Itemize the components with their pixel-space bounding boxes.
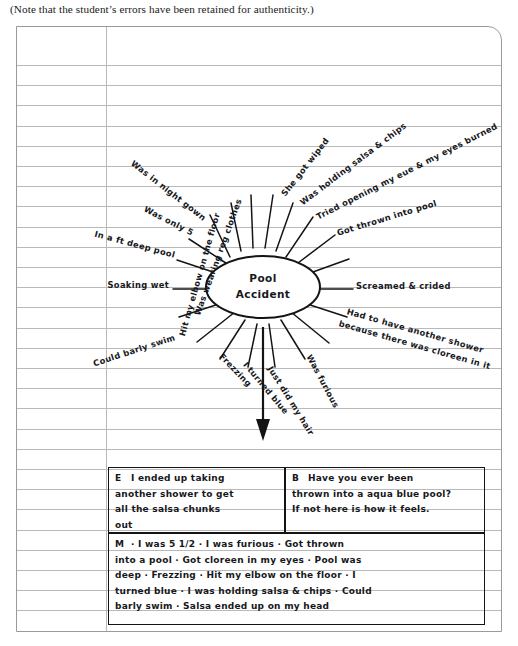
beginning-text-3: If not here is how it feels. [292,502,479,518]
beginning-text-1: Have you ever been [308,473,414,483]
middle-text-1: · I was 5 1/2 · I was furious · Got thro… [131,539,344,549]
central-bubble-text: Pool Accident [206,270,320,303]
ending-text-2: another shower to get [115,487,279,503]
spoke-label: Screamed & crided [356,281,451,291]
ending-text-1: I ended up taking [131,473,225,483]
middle-tag: M [115,537,131,553]
middle-line-1: M· I was 5 1/2 · I was furious · Got thr… [115,537,479,553]
central-line-2: Accident [236,288,291,300]
page-caption: (Note that the student’s errors have bee… [10,3,314,15]
ending-line-1: EI ended up taking [115,471,279,487]
ending-text-4: out [115,518,279,534]
beginning-text-2: thrown into a aqua blue pool? [292,487,479,503]
spoke-label: Soaking wet [108,280,169,290]
worksheet-page: (Note that the student’s errors have bee… [0,0,518,646]
ending-text-3: all the salsa chunks [115,502,279,518]
middle-box: M· I was 5 1/2 · I was furious · Got thr… [108,533,485,625]
beginning-box: BHave you ever been thrown into a aqua b… [285,467,485,533]
notebook-sheet: Hit my elbow on the floorWas wearing reg… [16,26,502,632]
middle-text-5: barly swim · Salsa ended up on my head [115,599,479,615]
middle-text-3: deep · Frezzing · Hit my elbow on the fl… [115,568,479,584]
middle-text-2: into a pool · Got cloreen in my eyes · P… [115,553,479,569]
beginning-line-1: BHave you ever been [292,471,479,487]
ending-box: EI ended up taking another shower to get… [108,467,285,533]
central-line-1: Pool [249,272,276,284]
middle-text-4: turned blue · I was holding salsa & chip… [115,584,479,600]
beginning-tag: B [292,471,308,487]
ending-tag: E [115,471,131,487]
